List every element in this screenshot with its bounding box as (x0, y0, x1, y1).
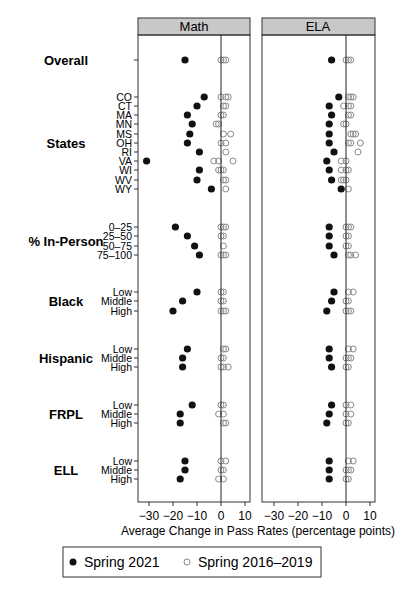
point-2021 (177, 410, 184, 417)
point-2021 (196, 166, 203, 173)
point-2021 (326, 345, 333, 352)
point-2021 (191, 242, 198, 249)
point-2021 (196, 251, 203, 258)
point-2021 (179, 297, 186, 304)
point-2021 (184, 139, 191, 146)
point-2021 (186, 130, 193, 137)
point-2021 (179, 354, 186, 361)
group-label: FRPL (49, 407, 83, 422)
point-2021 (328, 297, 335, 304)
group-label: Overall (44, 53, 88, 68)
x-axis-label: Average Change in Pass Rates (percentage… (121, 524, 395, 538)
point-2021 (326, 232, 333, 239)
point-2021 (326, 166, 333, 173)
row-label: High (110, 473, 132, 485)
point-2021 (177, 419, 184, 426)
point-2021 (172, 223, 179, 230)
legend-filled-dot-icon (70, 559, 77, 566)
plot-area-ela (262, 35, 375, 502)
point-2021 (330, 251, 337, 258)
point-2021 (323, 307, 330, 314)
x-tick-label: 10 (238, 509, 252, 523)
point-2016-2019 (223, 186, 229, 192)
point-2016-2019 (355, 149, 361, 155)
x-tick-label: −30 (139, 509, 160, 523)
x-tick-label: −10 (187, 509, 208, 523)
point-2021 (328, 111, 335, 118)
row-label: High (110, 305, 132, 317)
point-2021 (181, 466, 188, 473)
point-2021 (330, 148, 337, 155)
row-label: High (110, 417, 132, 429)
point-2021 (326, 475, 333, 482)
panel-ela: ELA (262, 18, 375, 502)
point-2021 (323, 419, 330, 426)
strip-label-ela: ELA (306, 19, 331, 34)
point-2021 (326, 466, 333, 473)
point-2021 (189, 120, 196, 127)
point-2021 (326, 223, 333, 230)
point-2021 (179, 363, 186, 370)
point-2016-2019 (357, 140, 363, 146)
point-2021 (326, 457, 333, 464)
point-2021 (196, 148, 203, 155)
x-tick-label: −20 (163, 509, 184, 523)
point-2021 (323, 157, 330, 164)
row-label: High (110, 361, 132, 373)
point-2021 (184, 345, 191, 352)
point-2021 (189, 401, 196, 408)
point-2021 (328, 363, 335, 370)
point-2016-2019 (223, 149, 229, 155)
point-2021 (181, 457, 188, 464)
x-tick-label: −30 (264, 509, 285, 523)
point-2021 (326, 120, 333, 127)
point-2021 (177, 475, 184, 482)
group-label: States (46, 136, 85, 151)
point-2021 (326, 139, 333, 146)
point-2021 (326, 410, 333, 417)
dot-plot-chart: Math ELA OverallStatesCOCTMAMNMSOHRIVAWI… (0, 0, 403, 589)
row-label: WY (115, 183, 132, 195)
point-2021 (208, 185, 215, 192)
point-2021 (193, 102, 200, 109)
group-label: % In-Person (28, 234, 103, 249)
point-2016-2019 (230, 158, 236, 164)
point-2021 (335, 93, 342, 100)
point-2021 (328, 56, 335, 63)
point-2021 (143, 157, 150, 164)
point-2021 (184, 232, 191, 239)
point-2016-2019 (228, 131, 234, 137)
point-2021 (330, 288, 337, 295)
point-2021 (326, 102, 333, 109)
legend-label-2016-2019: Spring 2016–2019 (198, 554, 313, 570)
x-tick-label: 0 (343, 509, 350, 523)
x-tick-label: −10 (312, 509, 333, 523)
point-2021 (201, 93, 208, 100)
strip-label-math: Math (180, 19, 209, 34)
panel-math: Math (138, 18, 250, 502)
group-label: Black (49, 294, 84, 309)
group-label: ELL (54, 463, 79, 478)
point-2021 (338, 185, 345, 192)
point-2021 (328, 401, 335, 408)
point-2021 (326, 354, 333, 361)
legend-label-2021: Spring 2021 (84, 554, 160, 570)
point-2021 (193, 176, 200, 183)
data-points (143, 56, 363, 482)
point-2021 (181, 56, 188, 63)
point-2021 (326, 242, 333, 249)
point-2021 (184, 111, 191, 118)
x-tick-label: −20 (288, 509, 309, 523)
x-tick-label: 0 (218, 509, 225, 523)
row-labels: OverallStatesCOCTMAMNMSOHRIVAWIWVWY% In-… (28, 53, 138, 485)
group-label: Hispanic (39, 351, 93, 366)
point-2021 (193, 288, 200, 295)
legend: Spring 2021 Spring 2016–2019 (63, 547, 321, 577)
point-2021 (326, 130, 333, 137)
point-2021 (169, 307, 176, 314)
point-2021 (328, 176, 335, 183)
x-tick-label: 10 (363, 509, 377, 523)
row-label: 75–100 (97, 249, 132, 261)
